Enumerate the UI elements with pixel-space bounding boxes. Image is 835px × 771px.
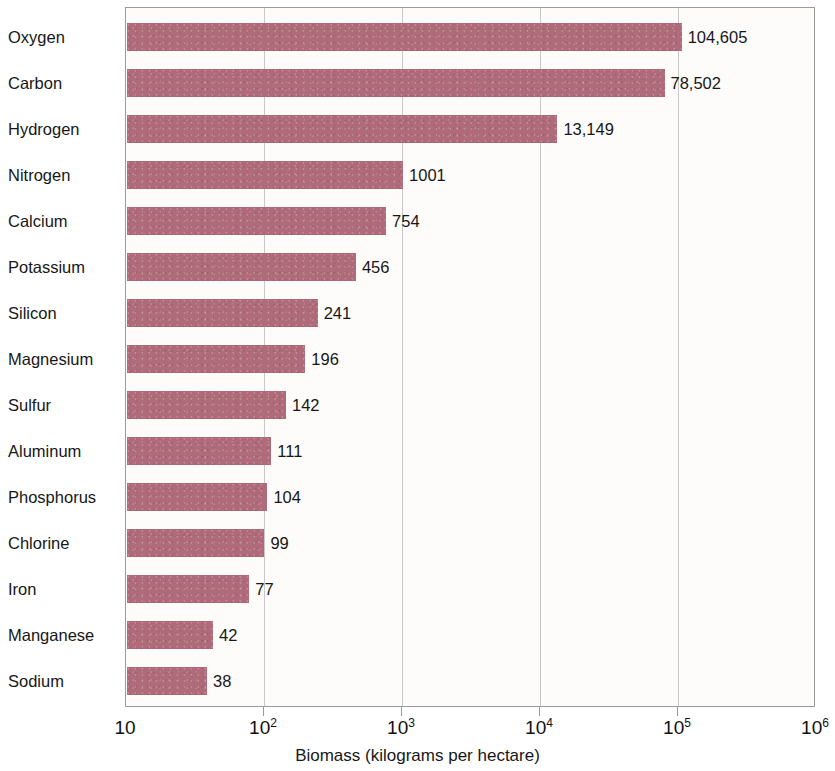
value-label: 241 <box>324 304 352 321</box>
bar <box>127 345 305 373</box>
category-label: Silicon <box>8 304 126 321</box>
category-label: Sulfur <box>8 396 126 413</box>
bar-row: Oxygen104,605 <box>126 14 814 60</box>
tick-mark <box>677 707 678 716</box>
tick-mark <box>401 707 402 716</box>
category-label: Oxygen <box>8 28 126 45</box>
bar-row: Phosphorus104 <box>126 474 814 520</box>
value-label: 1001 <box>409 166 446 183</box>
bar-row: Sodium38 <box>126 658 814 704</box>
bar-row: Silicon241 <box>126 290 814 336</box>
value-label: 42 <box>219 627 237 644</box>
bar-row: Iron77 <box>126 566 814 612</box>
value-label: 99 <box>270 535 288 552</box>
bar-row: Nitrogen1001 <box>126 152 814 198</box>
bar-row: Potassium456 <box>126 244 814 290</box>
bar-row: Aluminum111 <box>126 428 814 474</box>
bar-row: Manganese42 <box>126 612 814 658</box>
category-label: Magnesium <box>8 350 126 367</box>
category-label: Carbon <box>8 74 126 91</box>
category-label: Aluminum <box>8 442 126 459</box>
value-label: 78,502 <box>671 74 721 91</box>
x-tick-label: 103 <box>387 718 415 737</box>
bar-row: Sulfur142 <box>126 382 814 428</box>
bar <box>127 575 249 603</box>
value-label: 456 <box>362 258 390 275</box>
tick-mark <box>263 707 264 716</box>
category-label: Potassium <box>8 258 126 275</box>
bar <box>127 115 557 143</box>
bar <box>127 621 213 649</box>
bar-row: Carbon78,502 <box>126 60 814 106</box>
tick-mark <box>539 707 540 716</box>
biomass-bar-chart: Oxygen104,605Carbon78,502Hydrogen13,149N… <box>0 0 835 771</box>
category-label: Chlorine <box>8 535 126 552</box>
x-tick-label: 104 <box>525 718 553 737</box>
category-label: Iron <box>8 581 126 598</box>
x-tick-label: 102 <box>249 718 277 737</box>
category-label: Calcium <box>8 212 126 229</box>
bar <box>127 69 665 97</box>
bar <box>127 299 318 327</box>
bar <box>127 667 207 695</box>
bar-row: Chlorine99 <box>126 520 814 566</box>
value-label: 196 <box>311 350 339 367</box>
category-label: Sodium <box>8 673 126 690</box>
bar <box>127 161 403 189</box>
value-label: 104,605 <box>688 28 748 45</box>
value-label: 38 <box>213 673 231 690</box>
plot-area: Oxygen104,605Carbon78,502Hydrogen13,149N… <box>125 7 815 707</box>
bar-row: Hydrogen13,149 <box>126 106 814 152</box>
category-label: Hydrogen <box>8 120 126 137</box>
x-axis-title: Biomass (kilograms per hectare) <box>0 747 835 764</box>
bar-row: Magnesium196 <box>126 336 814 382</box>
value-label: 77 <box>255 581 273 598</box>
bar <box>127 437 271 465</box>
bar <box>127 207 386 235</box>
x-tick-label: 10 <box>114 718 135 737</box>
bar-row: Calcium754 <box>126 198 814 244</box>
category-label: Phosphorus <box>8 488 126 505</box>
bar <box>127 529 264 557</box>
value-label: 13,149 <box>563 120 613 137</box>
bar <box>127 23 682 51</box>
value-label: 111 <box>277 442 302 459</box>
x-tick-label: 105 <box>663 718 691 737</box>
bar <box>127 483 267 511</box>
bar <box>127 391 286 419</box>
value-label: 104 <box>273 488 301 505</box>
value-label: 754 <box>392 212 420 229</box>
category-label: Manganese <box>8 627 126 644</box>
category-label: Nitrogen <box>8 166 126 183</box>
x-tick-label: 106 <box>801 718 829 737</box>
bar <box>127 253 356 281</box>
value-label: 142 <box>292 396 320 413</box>
